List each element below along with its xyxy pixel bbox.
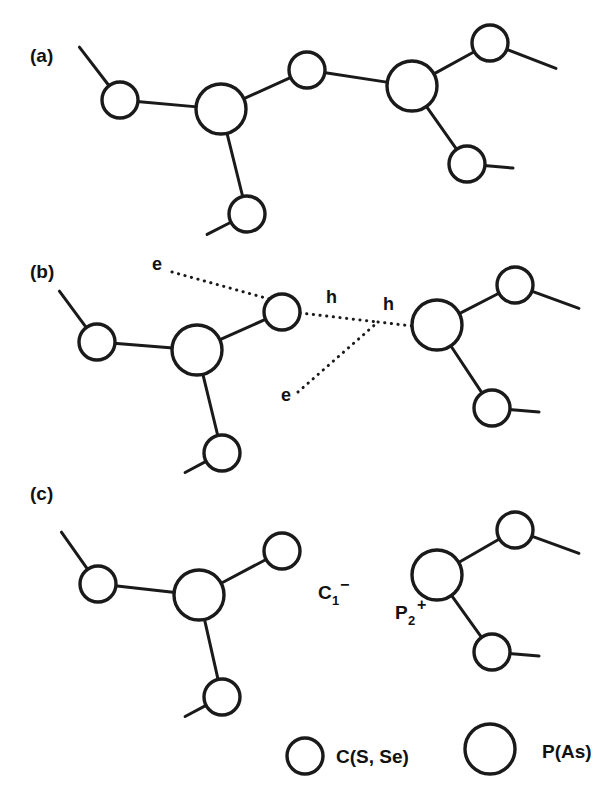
atom-p-c-left-p [174,570,224,620]
hole-label-left: h [326,287,337,307]
atom-c-c-right-c-bottom [474,634,510,670]
atom-c-c-right-c-top [497,512,533,548]
species-c1-minus-base: C [318,582,332,603]
species-p2-plus-subscript: 2 [408,613,415,628]
atom-p-b-p-left [172,325,222,375]
atom-c-a-c-bottomleft [229,196,265,232]
atom-c-a-c-bottomright [449,146,485,182]
species-c1-minus-subscript: 1 [332,593,339,608]
atom-c-c-left-c-topright [264,533,300,569]
species-c1-minus-superscript: − [340,576,349,593]
electron-label-top: e [152,254,162,274]
atom-c-b-c-mid [264,294,300,330]
atom-c-c-left-c-left [80,566,116,602]
atom-c-a-c-bridge [289,52,325,88]
electron-label-bottom: e [281,385,291,405]
figure-background [0,0,616,801]
atom-p-a-p-left [196,84,246,134]
atom-c-c-left-c-bottom [204,679,240,715]
atom-c-b-c-left [79,324,115,360]
panel-label-a: (a) [30,45,53,66]
network-structure-diagram: (a)(b)(c)eehh C1− P2+C(S, Se)P(As) [0,0,616,801]
figure-root: (a)(b)(c)eehh C1− P2+C(S, Se)P(As) [0,0,616,801]
panel-label-b: (b) [30,261,54,282]
atom-p-c-right-p [412,550,462,600]
panel-label-c: (c) [30,483,53,504]
species-p2-plus-superscript: + [417,596,426,613]
atom-c-b-c-bottomright [474,390,510,426]
atom-c-b-c-bottomleft [204,435,240,471]
atom-c-a-c-topright [472,25,508,61]
atom-c-a-c-left [102,82,138,118]
species-p2-plus-base: P [395,602,408,623]
atom-p-a-p-right [387,61,437,111]
hole-label-right: h [383,294,394,314]
legend-symbol-c [287,738,323,774]
atom-p-b-p-right [412,300,462,350]
legend-label-p: P(As) [542,741,592,762]
legend-label-c: C(S, Se) [336,746,409,767]
legend-symbol-p [465,724,515,774]
atom-c-b-c-topright [497,267,533,303]
